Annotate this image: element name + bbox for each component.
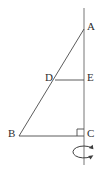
vertex-label-b: B bbox=[8, 128, 15, 139]
right-angle-mark-at-c bbox=[77, 129, 84, 136]
vertex-label-a: A bbox=[87, 21, 95, 32]
vertex-label-c: C bbox=[87, 128, 94, 139]
vertex-label-e: E bbox=[87, 72, 94, 83]
vertex-label-d: D bbox=[45, 72, 53, 83]
geometry-figure: A B C D E bbox=[0, 0, 109, 170]
